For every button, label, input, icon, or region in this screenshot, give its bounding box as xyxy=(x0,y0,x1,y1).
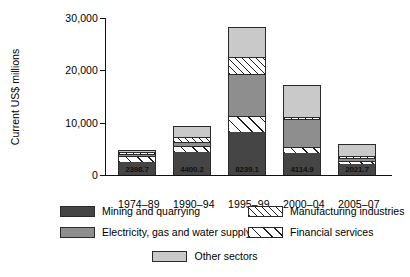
bar-segment-manufacturing-industries xyxy=(173,137,211,143)
y-tick-mark-30000 xyxy=(100,18,105,19)
bar-segment-other-sectors xyxy=(228,27,266,56)
legend: Mining and quarrying Manufacturing indus… xyxy=(0,205,410,275)
legend-item-other-sectors[interactable]: Other sectors xyxy=(152,247,257,265)
y-tick-label-30000: 30,000 xyxy=(65,13,98,24)
bar-segment-other-sectors xyxy=(283,85,321,118)
legend-swatch-financial-services xyxy=(248,227,283,238)
legend-item-electricity-gas-and-water-supply[interactable]: Electricity, gas and water supply xyxy=(60,226,251,238)
bar-value-label: 2398.7 xyxy=(119,166,155,174)
y-axis-title-text: Current US$ millions xyxy=(9,49,21,145)
y-tick-label-10000: 10,000 xyxy=(65,117,98,128)
bar-value-label: 4114.9 xyxy=(284,166,320,174)
bar-segment-electricity-gas-and-water-supply xyxy=(173,142,211,146)
legend-row: Mining and quarrying Manufacturing indus… xyxy=(0,205,410,223)
bar-segment-other-sectors xyxy=(338,144,376,156)
bar-segment-manufacturing-industries xyxy=(283,117,321,119)
y-axis-line xyxy=(105,18,106,176)
chart-figure: Current US$ millions 0 10,000 20,000 30,… xyxy=(0,0,410,277)
bar-segment-electricity-gas-and-water-supply xyxy=(338,158,376,161)
bar-2005-07[interactable]: 2021.7 xyxy=(338,144,376,175)
bar-segment-mining-and-quarrying: 4400.2 xyxy=(173,152,211,175)
bar-segment-electricity-gas-and-water-supply xyxy=(228,74,266,115)
legend-row: Electricity, gas and water supply Financ… xyxy=(0,226,410,244)
bar-segment-financial-services xyxy=(228,116,266,132)
legend-label: Electricity, gas and water supply xyxy=(102,226,251,238)
legend-item-mining-and-quarrying[interactable]: Mining and quarrying xyxy=(60,205,200,217)
y-tick-mark-10000 xyxy=(100,123,105,124)
legend-row: Other sectors xyxy=(0,247,410,265)
bar-segment-mining-and-quarrying: 8239.1 xyxy=(228,132,266,175)
legend-swatch-other-sectors xyxy=(152,251,187,262)
bar-2000-04[interactable]: 4114.9 xyxy=(283,85,321,175)
bar-segment-mining-and-quarrying: 4114.9 xyxy=(283,153,321,175)
legend-item-manufacturing-industries[interactable]: Manufacturing industries xyxy=(248,205,404,217)
legend-item-financial-services[interactable]: Financial services xyxy=(248,226,373,238)
bar-value-label: 8239.1 xyxy=(229,166,265,174)
bar-segment-financial-services xyxy=(283,147,321,153)
y-tick-mark-0 xyxy=(100,175,105,176)
bar-value-label: 2021.7 xyxy=(339,166,375,174)
bar-segment-electricity-gas-and-water-supply xyxy=(283,119,321,147)
y-axis-title: Current US$ millions xyxy=(8,18,22,176)
bar-segment-manufacturing-industries xyxy=(118,152,156,154)
legend-swatch-mining-and-quarrying xyxy=(60,206,95,217)
bar-segment-other-sectors xyxy=(173,126,211,137)
bar-segment-financial-services xyxy=(338,161,376,165)
bar-segment-financial-services xyxy=(118,156,156,163)
bar-segment-electricity-gas-and-water-supply xyxy=(118,154,156,156)
bar-segment-manufacturing-industries xyxy=(228,57,266,75)
bar-1995-99[interactable]: 8239.1 xyxy=(228,27,266,175)
bar-segment-financial-services xyxy=(173,146,211,152)
y-tick-mark-20000 xyxy=(100,70,105,71)
legend-swatch-manufacturing-industries xyxy=(248,206,283,217)
bar-segment-mining-and-quarrying: 2398.7 xyxy=(118,162,156,175)
bar-segment-manufacturing-industries xyxy=(338,156,376,158)
y-tick-label-20000: 20,000 xyxy=(65,65,98,76)
bar-segment-other-sectors xyxy=(118,150,156,152)
legend-label: Mining and quarrying xyxy=(102,205,200,217)
legend-label: Financial services xyxy=(290,226,373,238)
bar-1974-89[interactable]: 2398.7 xyxy=(118,150,156,175)
bar-segment-mining-and-quarrying: 2021.7 xyxy=(338,164,376,175)
bar-value-label: 4400.2 xyxy=(174,166,210,174)
legend-label: Manufacturing industries xyxy=(290,205,404,217)
legend-label: Other sectors xyxy=(194,250,257,262)
x-axis-line xyxy=(105,175,392,176)
plot-area: 0 10,000 20,000 30,000 2398.7 1974–89 44… xyxy=(105,18,390,176)
legend-swatch-electricity-gas-and-water-supply xyxy=(60,227,95,238)
y-tick-label-0: 0 xyxy=(92,170,98,181)
bar-1990-94[interactable]: 4400.2 xyxy=(173,126,211,175)
